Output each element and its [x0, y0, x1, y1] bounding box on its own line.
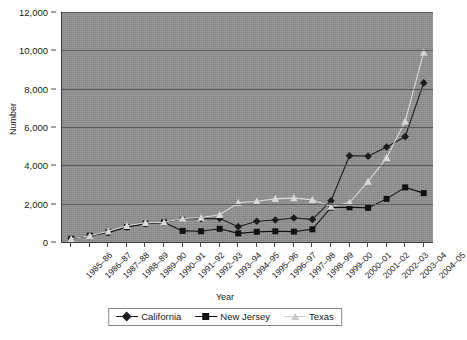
x-tick-mark	[182, 243, 183, 247]
y-tick-mark	[51, 127, 56, 128]
data-point	[364, 152, 372, 160]
data-point	[217, 226, 223, 232]
gridline	[62, 89, 433, 90]
chart-legend: CaliforniaNew JerseyTexas	[108, 308, 342, 326]
x-tick-mark	[70, 243, 71, 247]
series-california	[67, 79, 427, 242]
plot-area	[61, 12, 433, 243]
x-tick-mark	[163, 243, 164, 247]
x-tick-mark	[367, 243, 368, 247]
x-tick-mark	[349, 243, 350, 247]
x-tick-mark	[311, 243, 312, 247]
x-tick-mark	[404, 243, 405, 247]
x-tick-mark	[293, 243, 294, 247]
series-texas	[67, 48, 427, 242]
x-tick-mark	[237, 243, 238, 247]
data-point	[309, 226, 315, 232]
x-tick-mark	[386, 243, 387, 247]
x-tick-mark	[256, 243, 257, 247]
data-point	[254, 229, 260, 235]
data-point	[235, 230, 241, 236]
y-tick-label: 6,000	[24, 122, 48, 133]
data-point	[420, 79, 428, 87]
y-tick-mark	[51, 88, 56, 89]
y-tick-label: 8,000	[24, 83, 48, 94]
series-line	[71, 83, 423, 239]
data-point	[180, 228, 186, 234]
data-point	[253, 218, 261, 226]
data-point	[198, 228, 204, 234]
gridline	[62, 165, 433, 166]
data-point	[346, 152, 354, 160]
data-point	[401, 117, 409, 124]
triangle-marker	[284, 312, 306, 321]
data-point	[234, 223, 242, 231]
y-tick-mark	[51, 242, 56, 243]
data-point	[421, 190, 427, 196]
data-point	[272, 228, 278, 234]
data-point	[401, 133, 409, 141]
x-tick-mark	[107, 243, 108, 247]
x-tick-mark	[330, 243, 331, 247]
diamond-marker	[116, 312, 138, 321]
y-tick-label: 12,000	[19, 7, 48, 18]
data-point	[365, 205, 371, 211]
y-tick-mark	[51, 12, 56, 13]
gridline	[62, 12, 433, 13]
x-tick-mark	[144, 243, 145, 247]
gridline	[62, 127, 433, 128]
x-axis-title: Year	[0, 292, 450, 302]
x-axis-tick-labels: 1985–861986–871987–881988–891989–901990–…	[0, 248, 450, 292]
legend-label: New Jersey	[220, 311, 270, 322]
legend-label: California	[141, 311, 181, 322]
x-tick-mark	[274, 243, 275, 247]
x-tick-mark	[200, 243, 201, 247]
data-point	[383, 143, 391, 151]
x-tick-mark	[423, 243, 424, 247]
x-tick-mark	[89, 243, 90, 247]
x-tick-mark	[126, 243, 127, 247]
data-point	[272, 216, 280, 224]
data-point	[402, 184, 408, 190]
y-axis-tick-labels: 12,00010,0008,0006,0004,0002,0000	[0, 0, 56, 250]
y-tick-label: 10,000	[19, 45, 48, 56]
y-tick-mark	[51, 203, 56, 204]
gridline	[62, 204, 433, 205]
series-new-jersey	[68, 184, 426, 241]
data-point	[384, 196, 390, 202]
data-point	[216, 211, 224, 218]
y-tick-mark	[51, 165, 56, 166]
y-tick-label: 4,000	[24, 160, 48, 171]
series-line	[71, 187, 423, 238]
x-tick-mark	[219, 243, 220, 247]
legend-label: Texas	[309, 311, 334, 322]
y-tick-label: 0	[43, 237, 48, 248]
data-point	[291, 229, 297, 235]
y-tick-mark	[51, 50, 56, 51]
y-tick-label: 2,000	[24, 198, 48, 209]
legend-item: New Jersey	[195, 311, 270, 322]
gridline	[62, 50, 433, 51]
data-point	[290, 214, 298, 222]
legend-item: California	[116, 311, 181, 322]
data-point	[383, 154, 391, 161]
square-marker	[195, 312, 217, 321]
legend-item: Texas	[284, 311, 334, 322]
